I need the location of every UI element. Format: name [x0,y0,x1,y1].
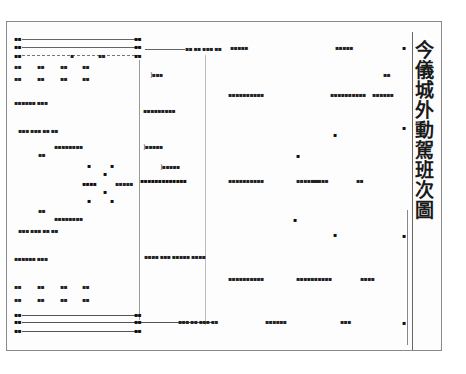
center-label: ▪▪▪▪▪▪▪▪▪▪▪▪▪ [140,178,186,184]
scatter-mark: ▪ [402,45,406,51]
rank-marker: ▪▪ [98,53,105,59]
right-label: ▪▪▪▪▪▪▪▪▪▪ [228,92,264,98]
rank-marker: ▪▪ [14,44,21,50]
rank-marker: ▪▪ [14,36,21,42]
right-label: ▪▪▪▪▪ [230,45,248,51]
group-label: ▪▪▪▪▪▪ ▪▪▪ [14,100,48,106]
grid-mark: ▪▪ [60,64,67,70]
right-label: ▪▪▪ [340,319,351,325]
right-label: ▪▪▪▪▪▪▪▪▪▪ [228,276,264,282]
center-label: ]▪▪▪▪▪ [160,164,180,170]
grid-mark: ▪▪ [82,284,89,290]
top-center-line [145,49,185,50]
right-label: ▪▪▪▪▪▪▪▪▪▪ [330,92,366,98]
grid-mark: ▪▪ [60,284,67,290]
rank-marker: ▪▪ [14,319,21,325]
left-column-line [139,60,140,320]
rank-marker: ▪▪ [14,328,21,334]
scatter-mark: ▪ [293,217,297,223]
formation-mark: ▪ [110,198,114,204]
grid-mark: ▪▪ [37,297,44,303]
grid-mark: ▪▪ [37,76,44,82]
grid-mark: ▪▪ [37,64,44,70]
top-rank-line-1 [22,39,140,40]
grid-mark: ▪▪ [14,76,21,82]
grid-mark: ▪▪ [60,297,67,303]
right-label: ▪▪▪▪▪▪ [265,319,286,325]
right-label: ▪▪▪▪▪▪ [372,92,393,98]
formation-center: ▪▪▪▪ [82,181,96,187]
rank-marker: ▪▪ [134,328,141,334]
grid-mark: ▪▪ [82,64,89,70]
center-top-row: ▪▪ ▪▪ ▪▪▪ ▪▪ [185,46,221,52]
group-label: ▪▪ [38,208,45,214]
scatter-mark: ▪ [296,153,300,159]
group-label: ▪▪▪ ▪▪▪ ▪▪ ▪▪ [18,128,58,134]
group-label: ▪▪▪▪▪ [115,181,133,187]
scatter-mark: ▪▪ [312,178,319,184]
group-label: ▪▪▪▪▪▪▪▪ [54,144,83,150]
scatter-mark: ▪▪ [356,178,363,184]
grid-mark: ▪▪ [14,297,21,303]
grid-mark: ▪▪ [60,76,67,82]
grid-mark: ▪▪ [14,64,21,70]
rank-marker: ▪▪ [134,319,141,325]
center-bottom-row: ▪▪▪ ▪▪ ▪▪▪ ▪▪ [178,319,218,325]
formation-mark: ▪ [87,163,91,169]
grid-mark: ▪▪ [37,284,44,290]
top-rank-line-2 [22,47,140,48]
group-label: ▪▪▪ ▪▪▪ ▪▪ ▪▪ [18,228,58,234]
grid-mark: ▪▪ [14,284,21,290]
bottom-rank-line-1 [22,315,140,316]
center-label: ]▪▪▪▪▪ [143,144,163,150]
right-label: ▪▪▪▪▪▪▪▪▪▪ [296,276,332,282]
scatter-mark: ▪ [402,320,406,326]
formation-mark: ▪ [103,189,107,195]
rank-marker: ▪▪ [134,53,141,59]
scatter-mark: ▪ [402,125,406,131]
rank-marker: ▪▪ [134,36,141,42]
scatter-mark: ▪ [402,233,406,239]
group-label: ▪▪▪▪▪▪ ▪▪▪ [14,256,48,262]
center-label: ▪▪▪▪▪▪▪▪▪ [143,108,175,114]
top-rank-line-3 [22,55,140,56]
grid-mark: ▪▪ [82,76,89,82]
grid-mark: ▪▪ [82,297,89,303]
title-divider-line [412,32,413,350]
scatter-mark: ▪ [333,232,337,238]
group-label: ▪▪▪▪▪▪▪▪ [54,216,83,222]
center-label: ]▪▪▪ [150,72,163,78]
right-axis-line [407,210,408,345]
formation-mark: ▪ [87,198,91,204]
center-axis-line [205,55,206,325]
right-label: ▪▪▪▪▪▪▪▪▪▪ [228,178,264,184]
center-label: ▪▪▪▪ ▪▪▪ ▪▪▪▪▪ ▪▪▪▪ [144,254,205,260]
formation-mark: ▪ [103,171,107,177]
right-label: ▪▪▪▪▪ [335,45,353,51]
scatter-mark: ▪ [333,132,337,138]
document-frame [6,21,442,351]
rank-marker: ▪▪ [14,53,21,59]
scatter-mark: ▪▪ [383,72,390,78]
rank-marker: ▪▪ [134,44,141,50]
formation-mark: ▪ [110,163,114,169]
group-label: ▪▪ [38,152,45,158]
bottom-rank-line-3 [22,331,140,332]
rank-marker: ▪ [70,53,74,59]
document-title: 今儀城外動駕班次圖 [416,40,434,220]
right-label: ▪▪▪▪ [360,276,374,282]
